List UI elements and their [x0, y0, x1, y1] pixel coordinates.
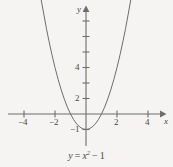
graph-figure: −4 −2 2 4 4 2 −1 x y y = x2 − 1	[0, 0, 173, 167]
x-tick-label-4: 4	[145, 118, 150, 127]
figure-caption: y = x2 − 1	[0, 150, 173, 161]
x-tick-label-neg4: −4	[18, 118, 28, 127]
y-tick-label-4: 4	[75, 63, 80, 72]
y-tick-label-neg1: −1	[70, 125, 80, 134]
x-axis	[8, 111, 167, 118]
caption-constant: 1	[100, 150, 105, 161]
x-tick-label-2: 2	[114, 118, 119, 127]
y-axis	[83, 6, 90, 147]
x-axis-label: x	[164, 117, 168, 126]
coordinate-plot	[0, 0, 173, 167]
y-tick-label-2: 2	[75, 94, 80, 103]
x-tick-label-neg2: −2	[49, 118, 59, 127]
y-axis-label: y	[77, 5, 81, 14]
